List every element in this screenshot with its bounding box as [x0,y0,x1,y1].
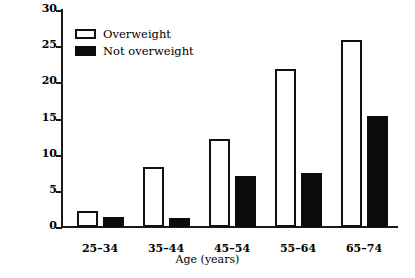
bar-not-overweight [367,116,388,227]
y-tick-label: 20 [42,74,57,88]
legend-label-not-overweight: Not overweight [103,45,194,58]
legend-label-overweight: Overweight [103,28,171,41]
bar-overweight [209,139,230,227]
bar-group [209,10,256,227]
bar-overweight [143,167,164,227]
legend-item-overweight: Overweight [75,27,194,41]
bar-overweight [275,69,296,227]
bar-overweight [341,40,362,227]
chart-legend: Overweight Not overweight [75,27,194,58]
y-tick-label: 5 [49,183,57,197]
y-tick-label: 15 [42,111,57,125]
bar-not-overweight [235,176,256,227]
bar-overweight [77,211,98,227]
bar-not-overweight [301,173,322,227]
bar-not-overweight [169,218,190,227]
y-tick-label: 0 [49,219,57,233]
legend-swatch-not-overweight-icon [75,46,96,56]
y-tick-label: 10 [42,147,57,161]
y-tick-label: 30 [42,2,57,16]
y-tick-label: 25 [42,38,57,52]
legend-item-not-overweight: Not overweight [75,44,194,58]
legend-swatch-overweight-icon [75,29,96,39]
x-tick-label: 65–74 [324,242,404,255]
bar-chart: Percentage Age (years) 05101520253025–34… [0,0,415,278]
bar-group [341,10,388,227]
bar-group [275,10,322,227]
bar-not-overweight [103,217,124,227]
